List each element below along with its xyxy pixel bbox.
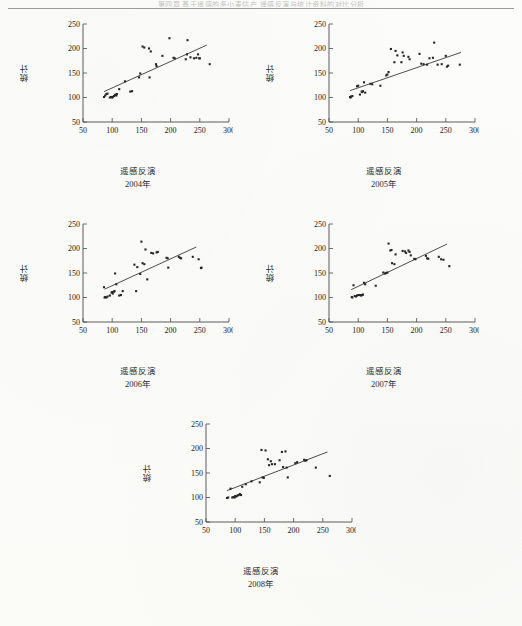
- svg-text:200: 200: [411, 326, 423, 335]
- data-point: [386, 271, 388, 273]
- running-head: 第四章 基于遥感的冬小麦估产 遥感反演与统计资料的对比分析: [0, 0, 522, 7]
- data-point: [103, 286, 105, 288]
- scatter-chart-2004: 统计 5010015020025050100150200250300 遥感反演 …: [15, 12, 261, 212]
- plot-svg: 5010015020025050100150200250300: [61, 18, 233, 144]
- data-point: [395, 50, 397, 52]
- data-point: [445, 55, 447, 57]
- svg-text:100: 100: [352, 326, 364, 335]
- chart-cell-2007: 统计 5010015020025050100150200250300 遥感反演 …: [261, 212, 507, 412]
- data-point: [405, 252, 407, 254]
- chart-cell-2004: 统计 5010015020025050100150200250300 遥感反演 …: [15, 12, 261, 212]
- data-point: [329, 475, 331, 477]
- svg-text:250: 250: [194, 126, 206, 135]
- figure-row-2: 统计 5010015020025050100150200250300 遥感反演 …: [0, 212, 522, 412]
- data-point: [120, 294, 122, 296]
- data-point: [414, 258, 416, 260]
- data-point: [271, 463, 273, 465]
- svg-text:50: 50: [79, 326, 87, 335]
- data-point: [148, 47, 150, 49]
- plot-area-2008: 5010015020025050100150200250300: [184, 418, 356, 544]
- data-point: [281, 451, 283, 453]
- data-point: [440, 258, 442, 260]
- chart-cell-2006: 统计 5010015020025050100150200250300 遥感反演 …: [15, 212, 261, 412]
- y-axis-label: 统计: [144, 464, 156, 482]
- svg-text:150: 150: [68, 69, 80, 78]
- plot-svg: 5010015020025050100150200250300: [307, 218, 479, 344]
- svg-text:150: 150: [314, 269, 326, 278]
- data-point: [113, 290, 115, 292]
- data-point: [438, 256, 440, 258]
- data-point: [150, 50, 152, 52]
- data-point: [192, 256, 194, 258]
- svg-text:250: 250: [314, 20, 326, 29]
- data-point: [229, 488, 231, 490]
- chart-cell-2005: 统计 5010015020025050100150200250300 遥感反演 …: [261, 12, 507, 212]
- svg-text:50: 50: [325, 326, 333, 335]
- data-point: [357, 85, 359, 87]
- data-point: [199, 57, 201, 59]
- plot-svg: 5010015020025050100150200250300: [61, 218, 233, 344]
- x-axis-label: 遥感反演: [15, 164, 261, 176]
- svg-text:100: 100: [229, 526, 241, 535]
- svg-text:100: 100: [68, 93, 80, 102]
- data-point: [116, 93, 118, 95]
- data-point: [152, 252, 154, 254]
- data-point: [114, 272, 116, 274]
- data-point: [209, 63, 211, 65]
- svg-text:200: 200: [165, 326, 177, 335]
- data-point: [263, 477, 265, 479]
- svg-text:150: 150: [68, 269, 80, 278]
- data-point: [284, 450, 286, 452]
- data-point: [241, 486, 243, 488]
- data-point: [379, 85, 381, 87]
- data-point: [124, 80, 126, 82]
- scatter-chart-2007: 统计 5010015020025050100150200250300 遥感反演 …: [261, 212, 507, 412]
- data-point: [441, 63, 443, 65]
- data-point: [197, 53, 199, 55]
- page-footer: [0, 615, 522, 624]
- data-point: [138, 76, 140, 78]
- data-point: [251, 480, 253, 482]
- svg-text:100: 100: [191, 493, 203, 502]
- plot-svg: 5010015020025050100150200250300: [307, 18, 479, 144]
- data-point: [432, 57, 434, 59]
- svg-text:200: 200: [411, 126, 423, 135]
- data-point: [146, 278, 148, 280]
- svg-text:200: 200: [288, 526, 300, 535]
- data-point: [282, 466, 284, 468]
- data-point: [180, 257, 182, 259]
- data-point: [189, 56, 191, 58]
- data-point: [139, 273, 141, 275]
- svg-text:100: 100: [106, 126, 118, 135]
- svg-text:200: 200: [165, 126, 177, 135]
- plot-svg: 5010015020025050100150200250300: [184, 418, 356, 544]
- data-point: [133, 264, 135, 266]
- chart-title-2007: 2007年: [261, 377, 507, 389]
- svg-text:200: 200: [68, 244, 80, 253]
- data-point: [305, 459, 307, 461]
- chart-title-2005: 2005年: [261, 177, 507, 189]
- svg-text:250: 250: [191, 420, 203, 429]
- data-point: [109, 294, 111, 296]
- svg-text:300: 300: [469, 126, 479, 135]
- scatter-chart-2005: 统计 5010015020025050100150200250300 遥感反演 …: [261, 12, 507, 212]
- data-point: [315, 467, 317, 469]
- data-point: [174, 57, 176, 59]
- x-axis-label: 遥感反演: [261, 364, 507, 376]
- svg-text:200: 200: [68, 44, 80, 53]
- data-point: [403, 55, 405, 57]
- header-divider: [8, 8, 514, 9]
- svg-text:100: 100: [352, 126, 364, 135]
- data-point: [131, 90, 133, 92]
- scatter-chart-2006: 统计 5010015020025050100150200250300 遥感反演 …: [15, 212, 261, 412]
- svg-text:300: 300: [346, 526, 356, 535]
- data-point: [167, 257, 169, 259]
- y-axis-label: 统计: [267, 64, 279, 82]
- data-point: [136, 266, 138, 268]
- svg-text:250: 250: [68, 220, 80, 229]
- data-point: [279, 459, 281, 461]
- svg-text:100: 100: [314, 93, 326, 102]
- data-point: [351, 296, 353, 298]
- data-point: [364, 283, 366, 285]
- x-axis-label: 遥感反演: [15, 364, 261, 376]
